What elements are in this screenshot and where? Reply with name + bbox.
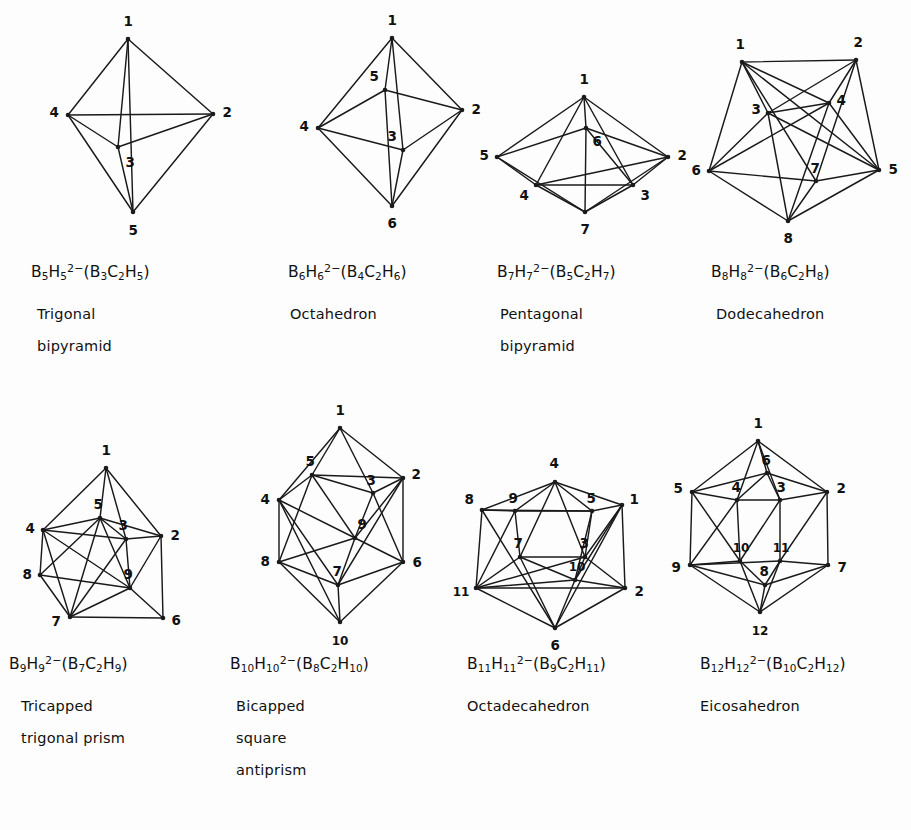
polyhedron-vertex <box>738 559 743 564</box>
vertex-label-12: 12 <box>752 625 768 637</box>
vertex-label-10: 10 <box>733 542 749 554</box>
polyhedron-vertex <box>756 439 761 444</box>
polyhedron-vertex <box>758 610 763 615</box>
vertex-label-2: 2 <box>836 482 845 496</box>
vertex-label-3: 3 <box>776 481 785 495</box>
polyhedron-vertex <box>778 559 783 564</box>
vertex-label-1: 1 <box>753 417 762 431</box>
polyhedron-edge <box>690 492 692 565</box>
polyhedron-edge <box>760 585 765 612</box>
vertex-label-9: 9 <box>671 561 680 575</box>
polyhedron-edge <box>780 492 827 500</box>
shape-name-eicosahedron-line1: Eicosahedron <box>700 698 800 714</box>
polyhedron-vertex <box>826 563 831 568</box>
polyhedron-vertex <box>688 563 693 568</box>
polyhedron-edge <box>690 565 760 612</box>
vertex-label-5: 5 <box>673 482 682 496</box>
vertex-label-6: 6 <box>761 454 770 468</box>
polyhedron-edge <box>780 561 828 565</box>
vertex-label-4: 4 <box>731 481 740 495</box>
polyhedron-vertex <box>825 490 830 495</box>
polyhedron-vertex <box>690 490 695 495</box>
polyhedron-vertex <box>765 471 770 476</box>
vertex-label-11: 11 <box>773 542 789 554</box>
polyhedron-edge <box>827 492 828 565</box>
polyhedron-vertex <box>735 498 740 503</box>
polyhedron-vertex <box>778 498 783 503</box>
polyhedron-edge <box>690 500 737 565</box>
formula-eicosahedron: B12H122−(B10C2H12) <box>700 654 846 674</box>
polyhedron-edge <box>740 561 760 612</box>
polyhedron-vertex <box>763 583 768 588</box>
polyhedron-edge <box>692 492 737 500</box>
vertex-label-8: 8 <box>759 565 768 579</box>
polyhedral-borane-figure: 12345B5H52−(B3C2H5)Trigonalbipyramid1234… <box>0 0 911 830</box>
polyhedron-edge <box>760 565 828 612</box>
vertex-label-7: 7 <box>837 561 846 575</box>
